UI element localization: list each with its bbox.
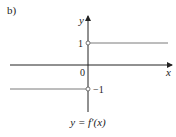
derivative-graph: b) y x 0 1 −1 y = f′(x) <box>0 0 176 137</box>
open-circle-upper <box>86 41 90 45</box>
origin-label: 0 <box>80 67 85 78</box>
y-tick-label-1: 1 <box>78 38 83 49</box>
panel-label: b) <box>7 4 17 17</box>
y-tick-label-neg1: −1 <box>93 84 104 95</box>
y-axis-label: y <box>78 14 84 26</box>
graph-caption: y = f′(x) <box>69 116 106 129</box>
open-circle-lower <box>86 87 90 91</box>
x-axis-label: x <box>165 66 171 78</box>
